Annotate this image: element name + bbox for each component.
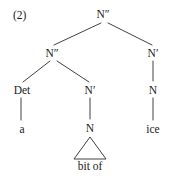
node-det: Det [14, 85, 31, 97]
terminal-bit-of: bit of [78, 161, 103, 173]
branch-root-to-left-nbar [54, 23, 101, 45]
node-right-n: N [149, 85, 157, 97]
bit-of-triangle [74, 137, 106, 159]
branch-root-to-right-nbar [108, 23, 152, 45]
terminal-a: a [19, 124, 24, 136]
syntax-tree-figure: (2) N″ N″ N′ Det N′ N N a ice bit of [0, 0, 174, 178]
terminal-ice: ice [146, 124, 159, 136]
node-right-nbar: N′ [148, 48, 159, 60]
node-mid-nbar: N′ [85, 85, 96, 97]
node-root-nbar2: N″ [96, 9, 109, 21]
node-mid-n: N [86, 123, 94, 135]
branch-nbar-to-det [23, 61, 50, 82]
branch-nbar-to-mid-nbar [57, 61, 89, 82]
node-left-nbar2: N″ [45, 48, 58, 60]
